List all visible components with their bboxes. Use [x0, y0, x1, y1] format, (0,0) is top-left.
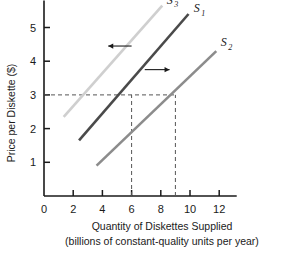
y-axis-title: Price per Diskette ($)	[5, 64, 17, 163]
x-tick-label: 6	[129, 203, 135, 215]
x-tick-label: 10	[184, 203, 196, 215]
x-axis-title-line1: Quantity of Diskettes Supplied	[92, 220, 233, 232]
supply-shift-chart: Price per Diskette ($) 12345 024681012 S…	[0, 0, 284, 253]
curve-label-letter: S	[221, 35, 227, 49]
x-tick-label: 2	[70, 203, 76, 215]
curve-label-letter: S	[167, 0, 173, 7]
x-tick-label: 12	[213, 203, 225, 215]
curve-label-subscript: 1	[201, 9, 205, 18]
curve-label-subscript: 3	[173, 0, 178, 9]
curve-label-letter: S	[194, 1, 200, 15]
chart-background	[0, 0, 284, 253]
x-tick-label: 8	[158, 203, 164, 215]
y-tick-label: 1	[30, 156, 36, 168]
curve-label-subscript: 2	[228, 43, 232, 52]
y-tick-label: 3	[30, 89, 36, 101]
y-tick-label: 4	[30, 55, 36, 67]
chart-canvas: Price per Diskette ($) 12345 024681012 S…	[0, 0, 284, 253]
y-tick-label: 5	[30, 22, 36, 34]
x-tick-label: 0	[41, 203, 47, 215]
x-tick-label: 4	[99, 203, 105, 215]
y-tick-label: 2	[30, 123, 36, 135]
x-axis-title-line2: (billions of constant-quality units per …	[65, 235, 259, 247]
